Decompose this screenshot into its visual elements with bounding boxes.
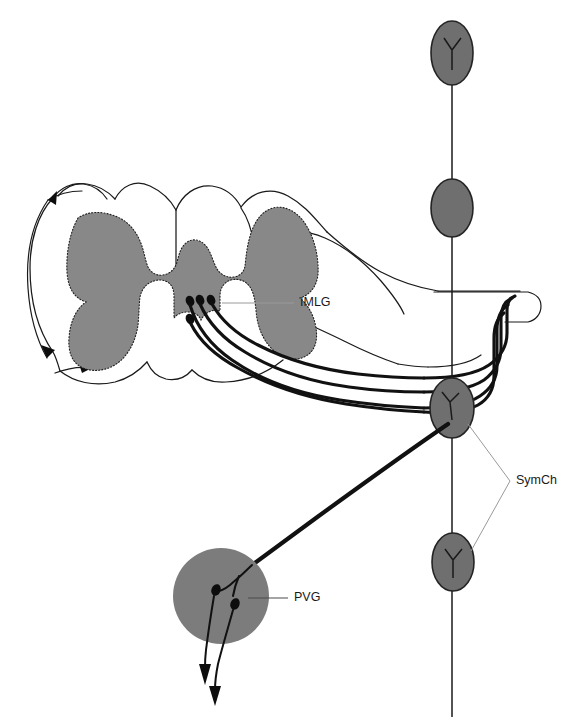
anatomical-diagram: IMLG SymCh PVG: [0, 0, 563, 717]
pvg-input-fiber: [252, 424, 448, 565]
label-pvg: PVG: [294, 590, 320, 604]
sympathetic-chain: [430, 21, 474, 717]
postganglionic-fiber-to-pvg: [252, 424, 448, 565]
label-symch: SymCh: [516, 473, 557, 487]
trunk-sheath-top: [434, 292, 541, 322]
pvg-arrowhead-1: [199, 664, 211, 685]
gray-matter-butterfly: [67, 207, 318, 370]
chain-ganglion-3: [430, 378, 474, 438]
diagram-canvas: IMLG SymCh PVG: [0, 0, 563, 717]
gray-matter-shape: [67, 207, 318, 370]
prevertebral-ganglion: [173, 548, 269, 706]
chain-ganglion-2: [431, 179, 473, 237]
pvg-circle: [173, 548, 269, 644]
pvg-arrowhead-2: [209, 686, 221, 706]
symch-leader-line-lower: [471, 481, 510, 551]
label-symch-group: SymCh: [468, 424, 557, 551]
symch-leader-line-upper: [468, 424, 510, 481]
trunk-sheath-bottom: [428, 355, 481, 367]
label-imlg: IMLG: [300, 295, 331, 309]
nerve-sheath-outline: [398, 364, 428, 367]
